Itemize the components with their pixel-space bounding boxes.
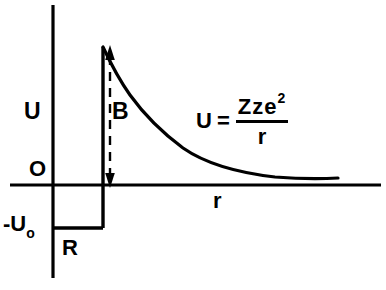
barrier-height-label: B [112,100,129,123]
well-depth-label: -Uo [3,213,35,238]
formula-fraction: Zze2 r [236,94,288,148]
formula-numerator-base: Zze [238,94,278,119]
formula-numerator: Zze2 [236,94,288,123]
nuclear-radius-label: R [62,237,78,259]
well-depth-label-main: -U [3,211,26,236]
formula-numerator-exponent: 2 [277,90,286,106]
origin-label: O [29,158,46,180]
coulomb-formula: U = Zze2 r [196,94,288,148]
diagram-canvas [0,0,386,290]
y-axis-label: U [24,100,41,123]
well-depth-label-subscript: o [26,225,35,241]
formula-denominator: r [258,123,267,148]
x-axis-label: r [213,190,222,212]
formula-equals-sign: = [217,110,230,132]
formula-lhs: U [196,110,212,132]
potential-energy-diagram: U O r R B -Uo U = Zze2 r [0,0,386,290]
